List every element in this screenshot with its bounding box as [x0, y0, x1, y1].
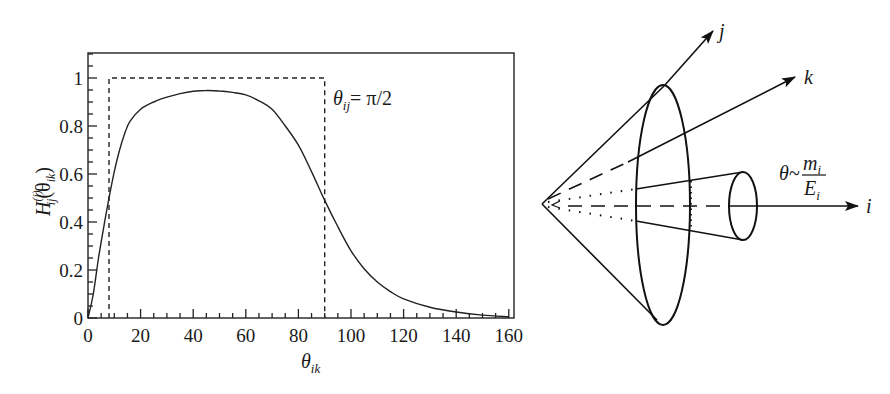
x-tick-label: 0 — [83, 325, 93, 346]
y-tick-label: 0.4 — [59, 212, 83, 233]
big-cone-upper-edge — [542, 86, 664, 204]
j-axis-label: j — [716, 20, 725, 43]
x-axis-tick-labels: 020406080100120140160 — [83, 325, 523, 346]
x-tick-label: 80 — [289, 325, 308, 346]
j-axis-arrow — [664, 31, 713, 86]
k-axis-label: k — [804, 66, 814, 88]
x-tick-label: 100 — [337, 325, 366, 346]
cone-angle-formula: θ~ mi Ei — [779, 152, 826, 203]
y-tick-label: 0 — [74, 308, 84, 329]
figure-canvas: 020406080100120140160 00.20.40.60.81 θij… — [0, 0, 890, 394]
y-tick-label: 0.2 — [59, 260, 83, 281]
y-tick-label: 0.6 — [59, 164, 83, 185]
annotation-theta-ij: θij= π/2 — [333, 87, 392, 113]
h-function-curve — [88, 90, 509, 318]
x-tick-label: 40 — [184, 325, 203, 346]
plot: 020406080100120140160 00.20.40.60.81 θij… — [30, 53, 523, 376]
plot-frame — [88, 53, 514, 318]
x-tick-label: 60 — [236, 325, 255, 346]
k-axis-hidden — [548, 162, 628, 199]
i-axis-label: i — [866, 195, 872, 217]
y-tick-label: 0.8 — [59, 116, 83, 137]
k-axis-arrow — [628, 77, 795, 162]
y-tick-label: 1 — [74, 68, 84, 89]
x-tick-label: 160 — [495, 325, 524, 346]
y-axis-label: H(i)ij(θik) — [30, 167, 58, 217]
svg-text:θ~: θ~ — [779, 162, 800, 184]
x-tick-label: 140 — [442, 325, 471, 346]
y-axis-tick-labels: 00.20.40.60.81 — [59, 68, 83, 329]
svg-text:Ei: Ei — [803, 177, 820, 203]
dashed-step-line — [109, 78, 325, 318]
x-tick-label: 20 — [131, 325, 150, 346]
x-axis-label: θik — [301, 350, 320, 376]
x-tick-label: 120 — [389, 325, 418, 346]
small-cone-upper-hidden — [548, 189, 636, 202]
small-cone-lower-hidden — [548, 207, 636, 221]
apex-mark — [552, 201, 560, 208]
big-cone-ellipse — [636, 85, 690, 325]
svg-text:mi: mi — [803, 152, 821, 177]
